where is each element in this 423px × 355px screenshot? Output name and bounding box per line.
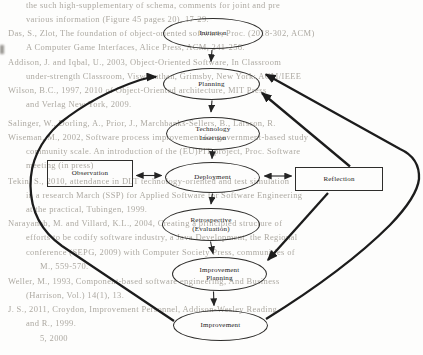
edge-reflection-improvement-planning — [268, 193, 328, 260]
edge-retrospective-improvement-planning — [211, 242, 214, 254]
edge-technology-insertion-deployment — [212, 150, 213, 159]
node-observation: Observation — [47, 160, 133, 187]
node-initiation: Initiation — [163, 18, 263, 49]
scanned-diagram-page: the such high-supplementary of schema, c… — [0, 0, 423, 355]
node-technology-insertion: Technology Insertion — [166, 117, 260, 150]
edge-improvement-planning-improvement — [214, 292, 215, 306]
edge-planning-technology-insertion — [211, 101, 212, 113]
node-reflection: Reflection — [295, 167, 383, 191]
node-retrospective: Retrospective (Evaluation) — [162, 208, 260, 241]
edge-initiation-planning — [211, 50, 212, 62]
node-deployment: Deployment — [165, 162, 260, 193]
edge-reflection-planning — [262, 93, 350, 167]
node-improvement: Improvement — [173, 310, 268, 341]
edge-deployment-retrospective — [211, 194, 213, 205]
node-planning: Planning — [163, 68, 260, 100]
node-improvement-planning: Improvement Planning — [172, 257, 267, 291]
edge-improvement-planning-left-loop — [30, 77, 174, 321]
edge-improvement-planning-right-loop — [266, 75, 419, 320]
